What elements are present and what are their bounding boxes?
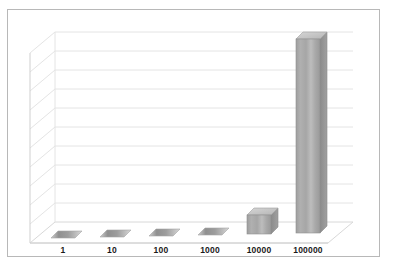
x-axis-label-10000: 10000: [247, 245, 272, 255]
x-axis-label-100000: 100000: [293, 245, 323, 255]
bar-100000-front: [296, 39, 320, 233]
bar-100000[interactable]: [296, 32, 327, 233]
x-axis-label-1: 1: [61, 245, 66, 255]
x-axis-label-1000: 1000: [200, 245, 220, 255]
x-axis-label-100: 100: [154, 245, 169, 255]
bar-10000-front: [247, 215, 271, 234]
bar-10000[interactable]: [247, 208, 278, 234]
chart-figure: 1 10 100 1000 10000 100000: [0, 0, 397, 273]
x-axis-label-10: 10: [107, 245, 117, 255]
bar-100000-side: [320, 32, 327, 233]
chart-frame-border: 1 10 100 1000 10000 100000: [7, 9, 380, 257]
bar-chart-3d-plot: [8, 10, 381, 258]
